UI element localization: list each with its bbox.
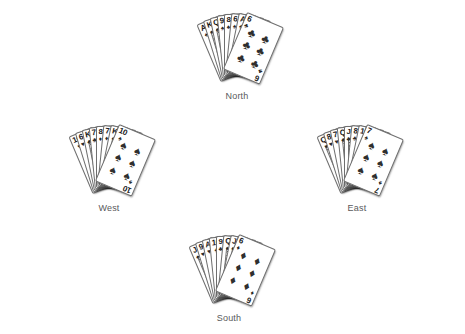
hand-label-west: West [14,203,204,213]
card-pips: ♠♠♠♠♠♠ [351,136,395,185]
card-suit-icon: ♠ [378,179,384,186]
card-suit-pip: ♠ [356,164,367,178]
hand-south[interactable]: J♠J♠♥♥♥♥9♥9♥♥A♥A♥♣♣♣♣10♣10♣♣♣♣♣9♣9♣Q♦Q♦J… [133,230,325,310]
card-suit-pip: ♠ [108,164,119,178]
card-suit-icon: ♠ [117,135,123,142]
hand-label-east: East [262,203,452,213]
bridge-deal-diagram: ♠A♠A♠K♠K♠Q♠Q♠♠♠♠♠9♠9♠♠♠♠♠8♠8♠♠♠♠6♠6♠♣A♣A… [0,0,465,334]
hand-label-north: North [148,91,326,101]
card-fan-east: Q♥Q♥♥♥♥♥8♥8♥♥♥♥7♥7♥Q♣Q♣J♣J♣♣♣♣♣8♣8♣♦♦♦♦1… [262,120,452,200]
card-suit-icon: ♣ [257,67,263,75]
card-fan-south: J♠J♠♥♥♥♥9♥9♥♥A♥A♥♣♣♣♣10♣10♣♣♣♣♣9♣9♣Q♦Q♦J… [133,230,325,310]
card-pips: ♦♦♦♦♦♦ [223,246,267,295]
card-fan-north: ♠A♠A♠K♠K♠Q♠Q♠♠♠♠♠9♠9♠♠♠♠♠8♠8♠♠♠♠6♠6♠♣A♣A… [148,8,326,88]
card-suit-icon: ♠ [128,178,134,185]
hand-east[interactable]: Q♥Q♥♥♥♥♥8♥8♥♥♥♥7♥7♥Q♣Q♣J♣J♣♣♣♣♣8♣8♣♦♦♦♦1… [262,120,452,200]
card-suit-icon: ♦ [250,289,256,296]
card-pips: ♣♣♣♣♣♣ [231,24,275,73]
card-suit-pip: ♣ [235,51,247,65]
card-pips: ♠♠♠♠♠♠ [103,136,147,185]
card-suit-pip: ♦ [233,261,243,274]
hand-label-south: South [133,313,325,323]
hand-north[interactable]: ♠A♠A♠K♠K♠Q♠Q♠♠♠♠♠9♠9♠♠♠♠♠8♠8♠♠♠♠6♠6♠♣A♣A… [148,8,326,88]
hand-west[interactable]: ♥♥♥♥10♥10♥♥♥♥6♥6♥K♣K♣♣♣♣7♣7♣♦♦♦♦8♦8♦♦♦♦7… [14,120,204,200]
card-suit-pip: ♦ [228,274,238,287]
card-fan-west: ♥♥♥♥10♥10♥♥♥♥6♥6♥K♣K♣♣♣♣7♣7♣♦♦♦♦8♦8♦♦♦♦7… [14,120,204,200]
